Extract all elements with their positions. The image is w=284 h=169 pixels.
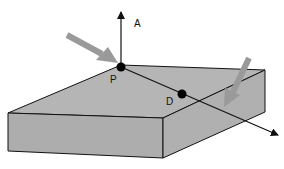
point-p-icon [117, 63, 126, 72]
incoming-arrow-left [67, 35, 118, 63]
label-d: D [166, 96, 173, 107]
point-d-icon [178, 90, 187, 99]
label-a: A [134, 18, 141, 29]
slab-block [8, 65, 265, 158]
diagram-canvas: A P D [0, 0, 284, 169]
label-p: P [110, 74, 117, 85]
block-front-face [8, 113, 163, 158]
